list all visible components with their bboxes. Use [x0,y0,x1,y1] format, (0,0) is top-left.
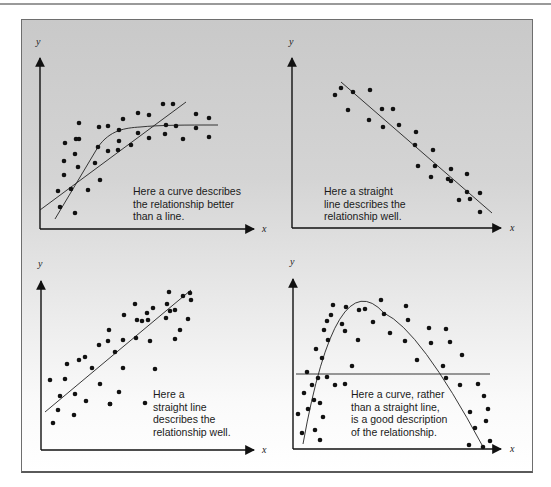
scatter-figure: y x y x [0,0,551,487]
y-axis-label: y [288,36,294,47]
panel-bottom-left: y x [37,258,267,455]
x-axis-label: x [509,443,515,454]
caption-top-right: Here a straight line describes the relat… [324,185,406,223]
caption-top-left: Here a curve describes the relationship … [133,185,241,223]
y-axis-label: y [37,258,43,269]
caption-bottom-left: Here a straight line describes the relat… [153,388,231,438]
x-axis-label: x [509,222,515,233]
y-axis-label: y [289,256,295,267]
y-axis-label: y [35,36,41,47]
x-axis-label: x [261,444,267,455]
caption-bottom-right: Here a curve, rather than a straight lin… [351,388,447,438]
x-axis-label: x [261,223,267,234]
